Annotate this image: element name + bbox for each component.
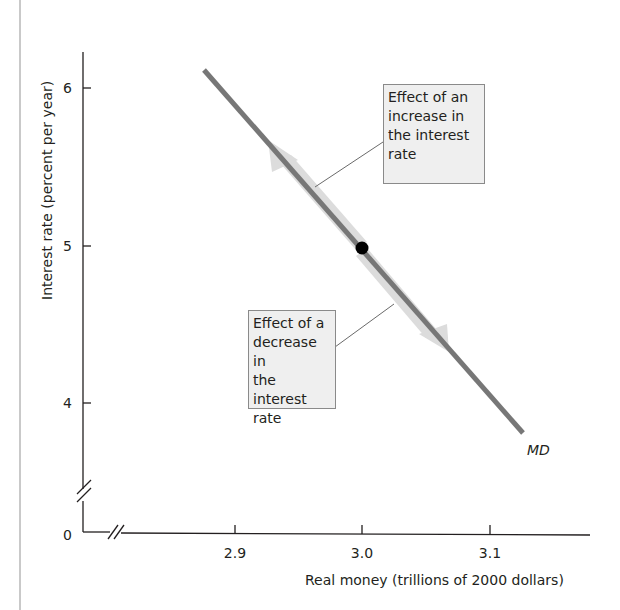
decrease-callout-line-4: rate <box>253 409 331 428</box>
y-axis-break-icon <box>77 480 91 502</box>
decrease-leader-line <box>335 304 394 347</box>
x-axis-break-icon <box>108 525 124 539</box>
decrease-callout: Effect of a decrease in the interest rat… <box>248 310 336 409</box>
x-axis <box>83 525 590 535</box>
plot-area <box>0 0 620 610</box>
x-tick-label-3-0: 3.0 <box>342 546 382 560</box>
x-tick-label-3-1: 3.1 <box>470 546 510 560</box>
increase-callout: Effect of an increase in the interest ra… <box>383 84 485 184</box>
origin-label: 0 <box>52 528 72 542</box>
decrease-callout-line-2: decrease in <box>253 333 331 371</box>
increase-callout-line-3: the interest <box>388 126 480 145</box>
decrease-callout-line-3: the interest <box>253 371 331 409</box>
x-tick-label-2-9: 2.9 <box>215 546 255 560</box>
y-tick-label-6: 6 <box>52 81 72 95</box>
increase-callout-line-4: rate <box>388 145 480 164</box>
md-curve-label: MD <box>527 443 550 457</box>
decrease-callout-line-1: Effect of a <box>253 314 331 333</box>
increase-callout-line-1: Effect of an <box>388 88 480 107</box>
x-axis-title: Real money (trillions of 2000 dollars) <box>305 573 564 587</box>
increase-leader-line <box>315 142 383 187</box>
y-tick-label-4: 4 <box>52 396 72 410</box>
y-tick-label-5: 5 <box>52 239 72 253</box>
y-axis <box>83 52 91 532</box>
increase-callout-line-2: increase in <box>388 107 480 126</box>
equilibrium-point <box>356 242 369 255</box>
y-axis-title: Interest rate (percent per year) <box>40 81 54 300</box>
